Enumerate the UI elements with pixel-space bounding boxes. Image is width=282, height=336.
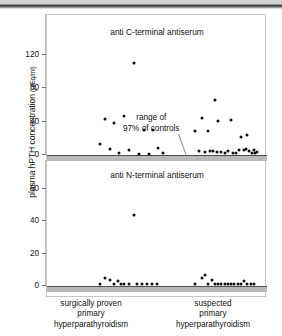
y-axis-tick-label: 60 [30, 183, 39, 192]
data-point [217, 119, 220, 122]
data-point [215, 150, 218, 153]
y-axis-label-main: plasma hPTH concentration [27, 94, 37, 198]
data-point [200, 276, 203, 279]
group-right-line2: primary [160, 309, 266, 319]
y-axis-tick [42, 154, 46, 155]
data-point [128, 283, 131, 286]
group-left-line2: primary [38, 309, 144, 319]
group-left-line1: surgically proven [38, 299, 144, 309]
data-point [123, 283, 126, 286]
y-axis-tick [42, 121, 46, 122]
data-point [204, 273, 207, 276]
zero-baseline-top [47, 155, 267, 156]
data-point [141, 283, 144, 286]
data-point [155, 283, 158, 286]
callout-top-line1: range of [123, 113, 179, 124]
group-left-line3: hyperparathyroidism [38, 320, 144, 330]
y-axis-tick [42, 54, 46, 55]
zero-baseline-bottom [47, 286, 267, 287]
control-range-band-bottom [47, 287, 267, 292]
y-axis-tick-label: 40 [30, 116, 39, 125]
y-axis-tick-label: 120 [25, 49, 39, 58]
plot-frame: anti C-terminal antiserum range of 97% o… [46, 14, 266, 297]
data-point [113, 122, 116, 125]
data-point [98, 283, 101, 286]
callout-leader-top [178, 134, 186, 155]
data-point [157, 146, 160, 149]
data-point [98, 143, 101, 146]
data-point [118, 151, 121, 154]
data-point [150, 283, 153, 286]
data-point [103, 118, 106, 121]
data-point [213, 98, 216, 101]
data-point [238, 149, 241, 152]
data-point [230, 118, 233, 121]
data-point [108, 148, 111, 151]
y-axis-tick [42, 87, 46, 88]
figure-scatter-hpth: plasma hPTH concentration (µlEq/ml) anti… [0, 9, 282, 336]
data-point [226, 149, 229, 152]
y-axis-tick [42, 220, 46, 221]
data-point [113, 283, 116, 286]
data-point [147, 153, 150, 156]
y-axis-tick [42, 253, 46, 254]
data-point [234, 151, 237, 154]
data-point [142, 129, 145, 132]
page-edge-band [0, 0, 282, 9]
y-axis-tick-label: 40 [30, 216, 39, 225]
data-point [145, 283, 148, 286]
data-point [103, 276, 106, 279]
y-axis-tick-label: 80 [30, 83, 39, 92]
panel-anti-c-terminal: anti C-terminal antiserum range of 97% o… [47, 15, 267, 161]
panel-bottom-title: anti N-terminal antiserum [47, 170, 267, 180]
panel-anti-n-terminal: anti N-terminal antiserum range of 100% … [47, 161, 267, 297]
data-point [123, 114, 126, 117]
data-point [204, 150, 207, 153]
data-point [162, 152, 165, 155]
data-point [197, 149, 200, 152]
data-point [137, 153, 140, 156]
y-axis-spine-bottom [45, 160, 46, 286]
data-point [116, 280, 119, 283]
data-point [239, 135, 242, 138]
panel-top-title: anti C-terminal antiserum [47, 27, 267, 37]
y-axis-tick [42, 285, 46, 286]
data-point [243, 280, 246, 283]
group-label-suspected: suspected primary hyperparathyroidism [160, 299, 266, 330]
y-axis-tick [42, 188, 46, 189]
group-label-surgically-proven: surgically proven primary hyperparathyro… [38, 299, 144, 330]
y-axis-tick-label: 20 [30, 248, 39, 257]
data-point [200, 117, 203, 120]
y-axis-tick-label: 0 [34, 281, 39, 290]
y-axis-tick-label: 0 [34, 150, 39, 159]
data-point [207, 283, 210, 286]
data-point [252, 283, 255, 286]
data-point [128, 149, 131, 152]
data-point [194, 129, 197, 132]
data-point [256, 150, 259, 153]
data-point [132, 62, 135, 65]
data-point [246, 134, 249, 137]
group-right-line1: suspected [160, 299, 266, 309]
data-point [210, 278, 213, 281]
group-right-line3: hyperparathyroidism [160, 320, 266, 330]
y-axis-spine-top [45, 14, 46, 155]
data-point [152, 129, 155, 132]
data-point [239, 283, 242, 286]
data-point [132, 213, 135, 216]
data-point [207, 129, 210, 132]
data-point [136, 283, 139, 286]
data-point [108, 278, 111, 281]
data-point [194, 283, 197, 286]
